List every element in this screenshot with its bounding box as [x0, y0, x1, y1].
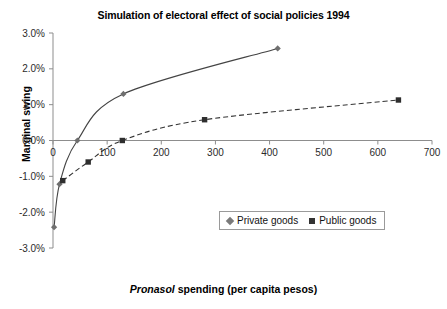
y-tick-label: 2.0% [22, 63, 45, 74]
x-tick-label: 500 [315, 147, 332, 158]
data-point-marker[interactable] [85, 159, 90, 164]
square-marker-icon [309, 218, 315, 224]
data-point-marker[interactable] [120, 91, 126, 97]
legend-item-public-goods[interactable]: Public goods [309, 215, 376, 226]
y-tick-label: 1.0% [22, 99, 45, 110]
diamond-marker-icon [226, 216, 234, 224]
x-axis-label-italic: Pronasol [130, 283, 175, 295]
y-tick-label: -3.0% [19, 243, 45, 254]
x-tick-label: 600 [370, 147, 387, 158]
data-point-marker[interactable] [202, 117, 207, 122]
data-point-marker[interactable] [275, 45, 281, 51]
x-axis-label: Pronasol spending (per capita pesos) [0, 283, 447, 295]
data-point-marker[interactable] [120, 138, 125, 143]
data-point-marker[interactable] [396, 97, 401, 102]
x-tick-label: 100 [99, 147, 116, 158]
data-point-marker[interactable] [74, 137, 80, 143]
legend-label-public-goods: Public goods [319, 215, 376, 226]
y-tick-label: 0.0% [22, 135, 45, 146]
x-axis-label-rest: spending (per capita pesos) [175, 283, 317, 295]
y-tick-label: 3.0% [22, 28, 45, 39]
x-tick-label: 400 [261, 147, 278, 158]
x-tick-label: 300 [207, 147, 224, 158]
series-layer [51, 45, 401, 230]
y-tick-label: -2.0% [19, 207, 45, 218]
series-line-private-goods [54, 48, 278, 227]
chart-legend: Private goods Public goods [219, 211, 385, 230]
legend-item-private-goods[interactable]: Private goods [227, 215, 298, 226]
legend-label-private-goods: Private goods [237, 215, 298, 226]
y-tick-label: -1.0% [19, 171, 45, 182]
data-point-marker[interactable] [51, 224, 57, 230]
chart-container: Simulation of electoral effect of social… [0, 0, 447, 309]
data-point-marker[interactable] [60, 178, 65, 183]
plot-area: -3.0%-2.0%-1.0%0.0%1.0%2.0%3.0%010020030… [0, 0, 447, 309]
x-tick-label: 700 [424, 147, 441, 158]
x-tick-label: 200 [153, 147, 170, 158]
x-tick-label: 0 [50, 147, 56, 158]
